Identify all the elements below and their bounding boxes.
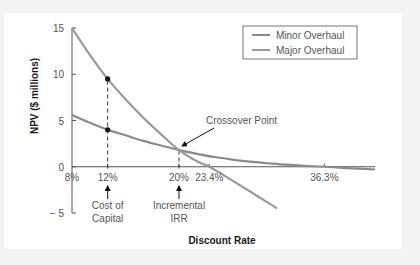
annotation-cost-of-capital: Cost of Capital [92,186,124,224]
incremental-irr-label-line2: IRR [170,213,187,224]
legend-label-major-overhaul: Major Overhaul [276,45,344,56]
x-tick-label: 20% [169,172,189,183]
y-tick-label: − 5 [50,208,65,219]
y-tick-label: 5 [58,116,64,127]
y-tick-labels: 151050− 5 [50,23,65,219]
legend: Minor Overhaul Major Overhaul [243,26,357,59]
incremental-irr-label-line1: Incremental [153,200,205,211]
crossover-arrow [182,128,214,146]
x-tick-label: 8% [65,172,80,183]
cost-of-capital-label-line1: Cost of [92,200,124,211]
data-point-marker [105,76,110,81]
y-tick-label: 15 [53,23,65,34]
y-tick-label: 0 [58,162,64,173]
cost-of-capital-label-line2: Capital [92,213,123,224]
y-axis-title: NPV ($ millions) [29,58,40,134]
y-tick-label: 10 [53,69,65,80]
npv-chart: 151050− 5 8%12%20%23.4%36.3% NPV ($ mill… [0,0,420,265]
annotation-crossover: Crossover Point [182,115,277,146]
x-tick-label: 36.3% [310,172,338,183]
data-point-marker [105,127,110,132]
legend-label-minor-overhaul: Minor Overhaul [276,30,344,41]
crossover-point-label: Crossover Point [206,115,277,126]
x-tick-label: 23.4% [195,172,223,183]
annotation-incremental-irr: Incremental IRR [153,186,205,224]
x-tick-label: 12% [98,172,118,183]
x-axis-title: Discount Rate [188,235,256,246]
x-tick-labels: 8%12%20%23.4%36.3% [65,172,339,183]
